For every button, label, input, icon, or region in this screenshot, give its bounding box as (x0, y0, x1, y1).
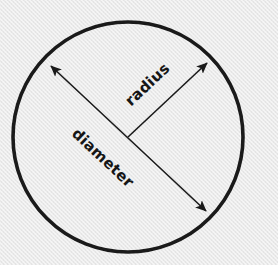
circle-diagram-svg (0, 0, 278, 265)
diagram-canvas: radius diameter (0, 0, 278, 265)
